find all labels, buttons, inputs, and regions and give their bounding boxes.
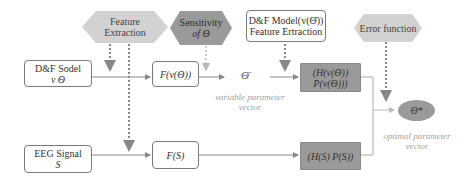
h-p-v-line1: (H(v(Θ)) (313, 67, 349, 78)
sensitivity-line1: Sensitivity (180, 17, 223, 28)
eeg-signal-box: EEG Signal S (24, 145, 92, 173)
h-p-s-box: (H(S) P(S)) (300, 142, 361, 170)
error-function-label: Error function (354, 14, 422, 42)
feature-extraction-label: Feature Extraction (82, 11, 168, 43)
optimal-caption-line2: vector (372, 141, 462, 151)
h-p-v-line2: P(v(Θ))) (313, 78, 347, 89)
h-p-v-theta-box: (H(v(Θ)) P(v(Θ))) (300, 63, 361, 92)
df-sodel-box: D&F Sodel v Θ (24, 60, 92, 87)
f-s-box: F(S) (152, 141, 199, 169)
theta-bar-symbol: Θ̄ (241, 69, 249, 81)
df-model-feature-extraction-box: D&F Model(v(Θ̄)) Feature Ertraction (246, 10, 326, 42)
feature-extraction-line1: Feature (104, 16, 146, 27)
optimal-parameter-caption: optimal parameter vector (372, 131, 462, 151)
df-sodel-line1: D&F Sodel (35, 63, 81, 74)
feature-extraction-line2: Extraction (104, 27, 146, 38)
sensitivity-label: Sensitivity of Θ (170, 11, 232, 45)
sensitivity-line2: of Θ (180, 28, 223, 39)
theta-star-ellipse: Θ* (398, 100, 435, 121)
df-sodel-line2: v Θ (51, 74, 65, 85)
variable-caption-line2: vector (205, 102, 295, 112)
optimal-caption-line1: optimal parameter (372, 131, 462, 141)
eeg-line2: S (56, 159, 61, 170)
variable-parameter-caption: variable parameter vector (205, 92, 295, 112)
variable-caption-line1: variable parameter (205, 92, 295, 102)
f-v-theta-box: F(v(Θ)) (152, 61, 199, 87)
df-model-line1: D&F Model(v(Θ̄)) (249, 15, 324, 26)
df-model-line2: Feature Ertraction (250, 26, 322, 37)
eeg-line1: EEG Signal (34, 148, 82, 159)
